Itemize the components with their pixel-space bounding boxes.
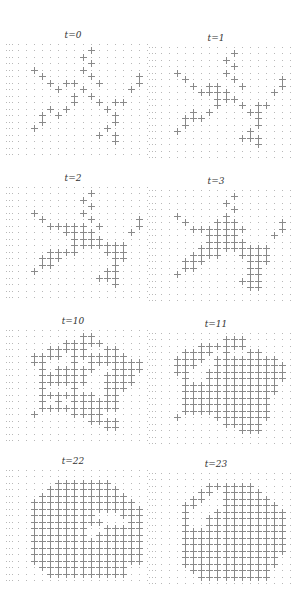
empty-site-dot xyxy=(266,235,267,236)
empty-site-dot xyxy=(18,83,19,84)
empty-site-dot xyxy=(26,219,27,220)
empty-site-dot xyxy=(152,222,153,223)
empty-site-dot xyxy=(99,580,100,581)
empty-site-dot xyxy=(107,154,108,155)
empty-site-dot xyxy=(12,245,13,246)
empty-site-dot xyxy=(139,291,140,292)
empty-site-dot xyxy=(201,60,202,61)
empty-site-dot xyxy=(152,216,153,217)
empty-site-dot xyxy=(6,496,7,497)
empty-site-dot xyxy=(209,359,210,360)
empty-site-dot xyxy=(34,291,35,292)
empty-site-dot xyxy=(169,229,170,230)
empty-site-dot xyxy=(91,258,92,259)
occupied-site-cross-icon xyxy=(55,405,62,412)
empty-site-dot xyxy=(266,287,267,288)
empty-site-dot xyxy=(193,333,194,334)
empty-site-dot xyxy=(209,196,210,197)
empty-site-dot xyxy=(50,343,51,344)
empty-site-dot xyxy=(123,483,124,484)
empty-site-dot xyxy=(50,401,51,402)
empty-site-dot xyxy=(91,115,92,116)
empty-site-dot xyxy=(139,122,140,123)
empty-site-dot xyxy=(9,96,10,97)
empty-site-dot xyxy=(131,115,132,116)
empty-site-dot xyxy=(34,258,35,259)
empty-site-dot xyxy=(161,268,162,269)
empty-site-dot xyxy=(290,352,291,353)
empty-site-dot xyxy=(149,268,150,269)
empty-site-dot xyxy=(149,261,150,262)
empty-site-dot xyxy=(74,470,75,471)
empty-site-dot xyxy=(217,151,218,152)
empty-site-dot xyxy=(161,551,162,552)
empty-site-dot xyxy=(234,300,235,301)
empty-site-dot xyxy=(6,284,7,285)
empty-site-dot xyxy=(149,564,150,565)
empty-site-dot xyxy=(177,492,178,493)
empty-site-dot xyxy=(9,356,10,357)
empty-site-dot xyxy=(290,437,291,438)
empty-site-dot xyxy=(242,53,243,54)
empty-site-dot xyxy=(12,382,13,383)
empty-site-dot xyxy=(274,47,275,48)
empty-site-dot xyxy=(177,281,178,282)
empty-site-dot xyxy=(282,112,283,113)
empty-site-dot xyxy=(12,330,13,331)
empty-site-dot xyxy=(217,66,218,67)
empty-site-dot xyxy=(177,99,178,100)
occupied-site-cross-icon xyxy=(279,226,286,233)
empty-site-dot xyxy=(34,401,35,402)
empty-site-dot xyxy=(177,229,178,230)
empty-site-dot xyxy=(131,44,132,45)
empty-site-dot xyxy=(99,434,100,435)
occupied-site-cross-icon xyxy=(279,375,286,382)
empty-site-dot xyxy=(274,216,275,217)
empty-site-dot xyxy=(50,44,51,45)
empty-site-dot xyxy=(74,330,75,331)
empty-site-dot xyxy=(226,268,227,269)
empty-site-dot xyxy=(131,401,132,402)
empty-site-dot xyxy=(139,574,140,575)
empty-site-dot xyxy=(226,86,227,87)
empty-site-dot xyxy=(234,151,235,152)
empty-site-dot xyxy=(115,239,116,240)
empty-site-dot xyxy=(161,66,162,67)
empty-site-dot xyxy=(99,219,100,220)
empty-site-dot xyxy=(161,151,162,152)
empty-site-dot xyxy=(26,554,27,555)
occupied-site-cross-icon xyxy=(206,89,213,96)
occupied-site-cross-icon xyxy=(96,242,103,249)
empty-site-dot xyxy=(185,346,186,347)
empty-site-dot xyxy=(290,564,291,565)
empty-site-dot xyxy=(91,57,92,58)
empty-site-dot xyxy=(123,239,124,240)
occupied-site-cross-icon xyxy=(214,343,221,350)
empty-site-dot xyxy=(58,470,59,471)
empty-site-dot xyxy=(58,427,59,428)
empty-site-dot xyxy=(18,128,19,129)
empty-site-dot xyxy=(185,339,186,340)
empty-site-dot xyxy=(242,131,243,132)
empty-site-dot xyxy=(66,115,67,116)
empty-site-dot xyxy=(152,261,153,262)
empty-site-dot xyxy=(152,268,153,269)
empty-site-dot xyxy=(74,57,75,58)
empty-site-dot xyxy=(274,404,275,405)
empty-site-dot xyxy=(209,294,210,295)
empty-site-dot xyxy=(58,128,59,129)
occupied-site-cross-icon xyxy=(214,483,221,490)
empty-site-dot xyxy=(66,200,67,201)
empty-site-dot xyxy=(12,349,13,350)
empty-site-dot xyxy=(139,258,140,259)
occupied-site-cross-icon xyxy=(88,418,95,425)
empty-site-dot xyxy=(201,372,202,373)
empty-site-dot xyxy=(234,216,235,217)
occupied-site-cross-icon xyxy=(174,369,181,376)
empty-site-dot xyxy=(6,109,7,110)
empty-site-dot xyxy=(6,187,7,188)
empty-site-dot xyxy=(26,580,27,581)
empty-site-dot xyxy=(18,245,19,246)
empty-site-dot xyxy=(209,222,210,223)
empty-site-dot xyxy=(131,291,132,292)
